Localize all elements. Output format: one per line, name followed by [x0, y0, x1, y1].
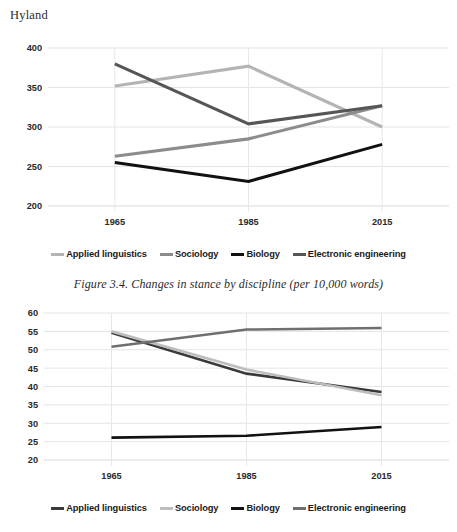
x-axis-tick-label: 2015: [372, 217, 392, 227]
x-axis-tick-label: 2015: [371, 471, 391, 481]
y-axis-tick-label: 20: [28, 455, 38, 465]
chart-bottom: 202530354045505560196519852015: [0, 300, 457, 498]
legend-swatch-icon: [293, 253, 306, 256]
y-axis-tick-label: 35: [28, 400, 38, 410]
legend-label: Electronic engineering: [308, 249, 406, 259]
chart-top-legend: Applied linguistics Sociology Biology El…: [0, 249, 457, 259]
legend-item-electronic-engineering: Electronic engineering: [293, 249, 406, 259]
legend-swatch-icon: [51, 507, 64, 510]
y-axis-tick-label: 40: [28, 382, 38, 392]
chart-bottom-canvas: 202530354045505560196519852015: [0, 300, 457, 498]
legend-item-biology: Biology: [231, 249, 279, 259]
chart-top-canvas: 200250300350400196519852015: [0, 34, 457, 246]
y-axis-tick-label: 55: [28, 327, 38, 337]
legend-item-sociology: Sociology: [160, 503, 219, 513]
legend-label: Biology: [246, 249, 279, 259]
y-axis-tick-label: 25: [28, 437, 38, 447]
document-page: Hyland 200250300350400196519852015 Appli…: [0, 0, 457, 532]
legend-label: Applied linguistics: [66, 503, 147, 513]
legend-swatch-icon: [51, 253, 64, 256]
x-axis-tick-label: 1985: [236, 471, 256, 481]
legend-swatch-icon: [160, 253, 173, 256]
y-axis-tick-label: 50: [28, 345, 38, 355]
y-axis-tick-label: 60: [28, 308, 38, 318]
legend-swatch-icon: [160, 507, 173, 510]
y-axis-tick-label: 300: [27, 122, 42, 132]
legend-swatch-icon: [293, 507, 306, 510]
chart-top: 200250300350400196519852015: [0, 34, 457, 246]
y-axis-tick-label: 400: [27, 43, 42, 53]
y-axis-tick-label: 200: [27, 201, 42, 211]
legend-swatch-icon: [231, 507, 244, 510]
legend-item-biology: Biology: [231, 503, 279, 513]
x-axis-tick-label: 1965: [105, 217, 125, 227]
chart-bottom-legend: Applied linguistics Sociology Biology El…: [0, 503, 457, 513]
y-axis-tick-label: 30: [28, 419, 38, 429]
x-axis-tick-label: 1965: [101, 471, 121, 481]
figure-caption: Figure 3.4. Changes in stance by discipl…: [0, 277, 457, 292]
legend-item-applied-linguistics: Applied linguistics: [51, 249, 147, 259]
y-axis-tick-label: 250: [27, 162, 42, 172]
y-axis-tick-label: 350: [27, 83, 42, 93]
x-axis-tick-label: 1985: [238, 217, 258, 227]
legend-item-electronic-engineering: Electronic engineering: [293, 503, 406, 513]
legend-label: Applied linguistics: [66, 249, 147, 259]
legend-item-applied-linguistics: Applied linguistics: [51, 503, 147, 513]
legend-label: Sociology: [175, 503, 219, 513]
page-header: Hyland: [10, 8, 48, 23]
legend-label: Sociology: [175, 249, 219, 259]
legend-item-sociology: Sociology: [160, 249, 219, 259]
legend-label: Biology: [246, 503, 279, 513]
legend-label: Electronic engineering: [308, 503, 406, 513]
y-axis-tick-label: 45: [28, 364, 38, 374]
legend-swatch-icon: [231, 253, 244, 256]
